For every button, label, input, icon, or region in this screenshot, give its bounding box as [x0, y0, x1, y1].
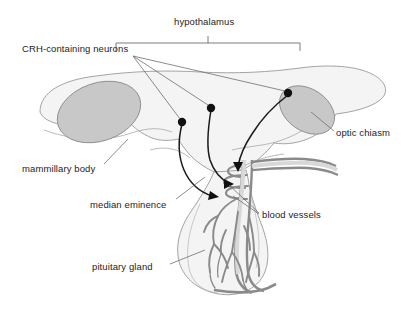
label-median-eminence: median eminence — [90, 200, 167, 210]
label-optic-chiasm: optic chiasm — [336, 128, 390, 138]
hypothalamus-bracket — [116, 36, 300, 51]
label-blood-vessels: blood vessels — [262, 210, 321, 220]
label-pituitary-gland: pituitary gland — [92, 262, 153, 272]
label-crh-containing-neurons: CRH-containing neurons — [22, 44, 128, 54]
hypothalamus-pituitary-diagram: hypothalamus CRH-containing neurons opti… — [0, 0, 401, 312]
label-hypothalamus: hypothalamus — [174, 17, 234, 27]
label-mammillary-body: mammillary body — [22, 164, 95, 174]
crh-neuron-left-soma — [178, 118, 186, 126]
crh-neuron-right-soma — [284, 89, 292, 97]
crh-neuron-middle-soma — [207, 104, 215, 112]
leader-mammillary-body — [104, 139, 128, 164]
